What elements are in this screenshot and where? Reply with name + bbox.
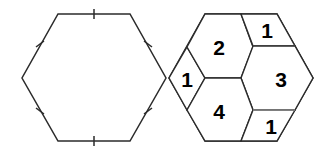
piece-label-bottom-right-rhombus: 1 bbox=[265, 115, 277, 138]
right-hexagon-group: 1 2 1 3 4 1 bbox=[169, 14, 313, 141]
plain-hexagon-outline bbox=[22, 14, 166, 141]
hexagon-figure: 1 2 1 3 4 1 bbox=[0, 0, 330, 155]
piece-label-upper-left-hexagon: 2 bbox=[213, 36, 225, 59]
left-hexagon-group bbox=[22, 9, 166, 146]
piece-label-top-right-trapezoid: 1 bbox=[261, 19, 273, 42]
piece-label-right-hexagon: 3 bbox=[275, 68, 287, 91]
piece-label-lower-left-hexagon: 4 bbox=[213, 100, 225, 123]
figure-container: 1 2 1 3 4 1 bbox=[0, 0, 330, 155]
piece-label-left-rhombus: 1 bbox=[181, 68, 193, 91]
